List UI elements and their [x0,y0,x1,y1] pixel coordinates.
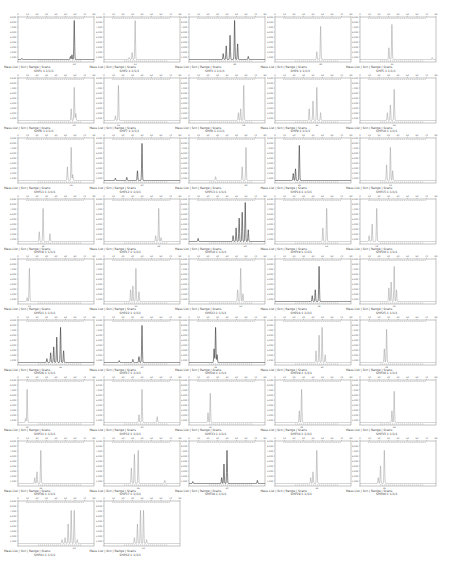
svg-text:1,000: 1,000 [352,56,359,59]
svg-text:50: 50 [406,316,409,319]
svg-text:60: 60 [74,74,77,77]
svg-text:50: 50 [406,74,409,77]
chromatogram-panel: 010203040506070801,0002,0003,0004,0005,0… [261,73,355,135]
svg-text:3,000: 3,000 [266,469,273,472]
peak-label: 54 [239,305,242,308]
svg-text:30: 30 [131,376,134,379]
chromatogram-panel: 010203040506070801,0002,0003,0004,0005,0… [90,194,184,256]
svg-text:8,000: 8,000 [95,202,102,205]
svg-text:0: 0 [188,13,190,16]
plot-frame [189,380,265,425]
plot-frame [360,78,436,123]
svg-text:9,000: 9,000 [95,258,102,261]
sample-id: SHP39:1:1/1/1 [291,493,312,496]
svg-text:40: 40 [140,316,143,319]
svg-text:3,000: 3,000 [181,227,188,230]
svg-text:50: 50 [235,13,238,16]
svg-text:50: 50 [150,195,153,198]
chromatogram-panel: 010203040506070801,0002,0003,0004,0005,0… [346,375,440,437]
svg-text:40: 40 [311,74,314,77]
peak-label: 48 [319,63,322,66]
svg-text:2,000: 2,000 [181,474,188,477]
svg-text:30: 30 [216,316,219,319]
svg-text:10: 10 [368,437,371,440]
spectrum-trace [275,450,351,483]
svg-text:50: 50 [406,134,409,137]
svg-text:5,000: 5,000 [352,278,359,281]
svg-text:2,000: 2,000 [266,414,273,417]
svg-text:4,000: 4,000 [181,404,188,407]
svg-text:4,000: 4,000 [95,101,102,104]
chromatogram-panel: 010203040506070801,0002,0003,0004,0005,0… [175,194,269,256]
svg-text:3,000: 3,000 [95,288,102,291]
svg-text:4,000: 4,000 [95,41,102,44]
svg-text:9,000: 9,000 [10,500,17,503]
svg-text:60: 60 [159,134,162,137]
svg-text:10: 10 [283,195,286,198]
sample-id: SHP42:1:1/1/1 [120,554,141,557]
chromatogram-panel: 010203040506070801,0002,0003,0004,0005,0… [90,73,184,135]
svg-text:20: 20 [36,195,39,198]
svg-text:40: 40 [226,316,229,319]
svg-text:4,000: 4,000 [352,41,359,44]
svg-text:30: 30 [131,497,134,500]
chromatogram-panel: 010203040506070801,0002,0003,0004,0005,0… [261,315,355,377]
svg-text:60: 60 [245,134,248,137]
svg-text:6,000: 6,000 [266,91,273,94]
svg-text:7,000: 7,000 [10,147,17,150]
svg-text:8,000: 8,000 [95,505,102,508]
svg-text:9,000: 9,000 [181,258,188,261]
svg-text:1,000: 1,000 [95,237,102,240]
svg-text:5,000: 5,000 [181,36,188,39]
svg-text:30: 30 [45,195,48,198]
svg-text:5,000: 5,000 [95,217,102,220]
svg-text:60: 60 [245,316,248,319]
svg-text:5,000: 5,000 [266,36,273,39]
svg-text:4,000: 4,000 [181,222,188,225]
svg-text:70: 70 [83,255,86,258]
svg-text:4,000: 4,000 [95,464,102,467]
spectrum-trace [189,21,265,60]
svg-text:20: 20 [121,134,124,137]
svg-text:7,000: 7,000 [10,449,17,452]
svg-text:40: 40 [311,376,314,379]
svg-text:5,000: 5,000 [266,96,273,99]
svg-text:0: 0 [274,195,276,198]
svg-text:2,000: 2,000 [266,474,273,477]
svg-text:50: 50 [150,316,153,319]
svg-text:6,000: 6,000 [10,273,17,276]
svg-text:4,000: 4,000 [352,101,359,104]
svg-text:60: 60 [330,134,333,137]
svg-text:50: 50 [235,195,238,198]
svg-text:50: 50 [406,195,409,198]
svg-text:40: 40 [311,13,314,16]
peak-label: 36 [393,305,396,308]
plot-frame [275,78,351,123]
svg-text:2,000: 2,000 [10,111,17,114]
svg-text:2,000: 2,000 [181,111,188,114]
svg-text:20: 20 [378,134,381,137]
svg-text:9,000: 9,000 [95,500,102,503]
svg-text:2,000: 2,000 [352,111,359,114]
svg-text:50: 50 [235,134,238,137]
svg-text:10: 10 [26,134,29,137]
svg-text:10: 10 [283,437,286,440]
svg-text:9,000: 9,000 [10,258,17,261]
svg-text:7,000: 7,000 [181,389,188,392]
spectrum-trace [104,389,180,422]
svg-text:5,000: 5,000 [266,278,273,281]
plot-frame [189,441,265,486]
spectrum-trace [275,87,351,120]
svg-text:6,000: 6,000 [352,394,359,397]
chromatogram-panel: 010203040506070801,0002,0003,0004,0005,0… [4,315,98,377]
svg-text:9,000: 9,000 [95,379,102,382]
svg-text:3,000: 3,000 [352,167,359,170]
spectrum-trace [360,266,436,301]
spectrum-trace [18,208,94,241]
spectrum-trace [189,327,265,362]
chromatogram-panel: 010203040506070801,0002,0003,0004,0005,0… [4,375,98,437]
svg-text:8,000: 8,000 [352,81,359,84]
svg-text:4,000: 4,000 [10,101,17,104]
svg-text:30: 30 [45,497,48,500]
chromatogram-panel: 010203040506070801,0002,0003,0004,0005,0… [346,73,440,135]
